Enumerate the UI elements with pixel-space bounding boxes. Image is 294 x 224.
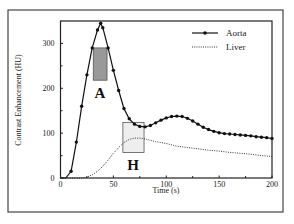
- aorta-marker: [265, 136, 268, 139]
- aorta-marker: [154, 121, 157, 124]
- aorta-marker: [244, 134, 247, 137]
- aorta-marker: [223, 132, 226, 135]
- aorta-marker: [69, 170, 72, 173]
- aorta-marker: [122, 107, 125, 110]
- aorta-marker: [260, 135, 263, 138]
- y-tick-label: 300: [43, 39, 55, 48]
- aorta-marker: [249, 134, 252, 137]
- aorta-marker: [149, 124, 152, 127]
- aorta-marker: [233, 133, 236, 136]
- x-tick-label: 50: [109, 180, 117, 189]
- aorta-marker: [80, 105, 83, 108]
- y-tick-label: 0: [51, 174, 55, 183]
- aorta-marker: [180, 115, 183, 118]
- aorta-marker: [117, 89, 120, 92]
- aorta-marker: [217, 131, 220, 134]
- y-axis-title: Contrast Enhancement (HU): [14, 54, 23, 146]
- aorta-marker: [96, 28, 99, 31]
- aorta-marker: [101, 26, 104, 29]
- region-h-label: H: [127, 157, 139, 173]
- aorta-marker: [191, 119, 194, 122]
- region-a-label: A: [95, 85, 106, 101]
- aorta-marker: [228, 132, 231, 135]
- y-tick-label: 100: [43, 129, 55, 138]
- aorta-marker: [91, 46, 94, 49]
- aorta-marker: [175, 114, 178, 117]
- aorta-marker: [186, 117, 189, 120]
- aorta-marker: [133, 122, 136, 125]
- x-tick-label: 0: [59, 180, 63, 189]
- aorta-marker: [212, 130, 215, 133]
- aorta-marker: [143, 125, 146, 128]
- region-box-a: [93, 48, 107, 80]
- legend-aorta-marker: [203, 31, 207, 35]
- aorta-marker: [85, 73, 88, 76]
- aorta-marker: [202, 126, 205, 129]
- aorta-marker: [159, 118, 162, 121]
- aorta-marker: [106, 46, 109, 49]
- aorta-marker: [128, 117, 131, 120]
- chart: 0501001502000100200300 Time (s) Contrast…: [0, 0, 294, 224]
- x-tick-label: 200: [266, 180, 278, 189]
- aorta-marker: [138, 125, 141, 128]
- x-axis-title: Time (s): [152, 186, 179, 195]
- aorta-marker: [112, 69, 115, 72]
- aorta-marker: [75, 140, 78, 143]
- aorta-marker: [207, 128, 210, 131]
- aorta-marker: [99, 22, 102, 25]
- aorta-marker: [196, 122, 199, 125]
- aorta-marker: [170, 115, 173, 118]
- aorta-marker: [239, 133, 242, 136]
- y-tick-label: 200: [43, 84, 55, 93]
- legend-aorta-label: Aorta: [226, 28, 247, 38]
- aorta-marker: [254, 135, 257, 138]
- x-tick-label: 150: [213, 180, 225, 189]
- legend-liver-label: Liver: [226, 42, 246, 52]
- aorta-marker: [165, 116, 168, 119]
